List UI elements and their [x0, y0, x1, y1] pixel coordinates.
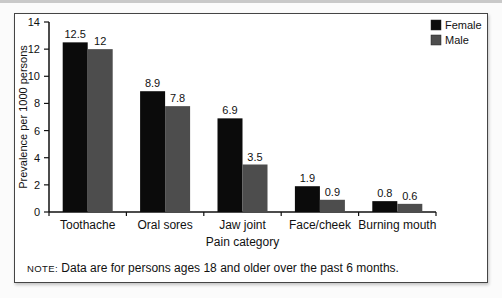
bar-female-1 [63, 42, 88, 212]
category-label: Oral sores [137, 218, 192, 232]
bar-male-1 [88, 49, 113, 212]
value-label: 12.5 [64, 28, 85, 40]
value-label: 0.9 [325, 186, 340, 198]
y-tick-label: 8 [34, 97, 40, 109]
bar-male-2 [165, 106, 190, 212]
footnote-text: Data are for persons ages 18 and older o… [58, 261, 399, 275]
y-tick-label: 4 [34, 152, 40, 164]
footnote: NOTE: Data are for persons ages 18 and o… [27, 261, 399, 275]
chart-panel: 0246810121412.512Toothache8.97.8Oral sor… [14, 13, 488, 283]
value-label: 0.6 [402, 190, 417, 202]
y-tick-label: 6 [34, 125, 40, 137]
legend-label-male: Male [445, 34, 469, 46]
legend-label-female: Female [445, 19, 482, 31]
bar-female-5 [372, 201, 397, 212]
category-label: Face/cheek [289, 218, 352, 232]
value-label: 6.9 [222, 104, 237, 116]
value-label: 8.9 [145, 77, 160, 89]
category-label: Jaw joint [219, 218, 266, 232]
value-label: 7.8 [170, 92, 185, 104]
value-label: 12 [94, 35, 106, 47]
category-label: Burning mouth [358, 218, 436, 232]
bar-male-5 [397, 204, 422, 212]
y-tick-label: 0 [34, 206, 40, 218]
bar-female-4 [295, 186, 320, 212]
y-axis-title: Prevalence per 1000 persons [17, 45, 29, 189]
y-tick-label: 14 [28, 16, 40, 28]
y-tick-label: 2 [34, 179, 40, 191]
value-label: 1.9 [300, 172, 315, 184]
bar-chart: 0246810121412.512Toothache8.97.8Oral sor… [15, 14, 486, 254]
footnote-prefix: NOTE: [27, 263, 58, 274]
bar-male-3 [243, 165, 268, 213]
x-axis-title: Pain category [206, 235, 279, 249]
y-tick-label: 10 [28, 70, 40, 82]
category-label: Toothache [60, 218, 116, 232]
y-tick-label: 12 [28, 43, 40, 55]
value-label: 0.8 [377, 187, 392, 199]
top-rule [0, 0, 502, 3]
bar-male-4 [320, 200, 345, 212]
bar-female-2 [140, 91, 165, 212]
legend-swatch-male [431, 35, 441, 45]
legend-swatch-female [431, 20, 441, 30]
bar-female-3 [218, 118, 243, 212]
value-label: 3.5 [247, 151, 262, 163]
